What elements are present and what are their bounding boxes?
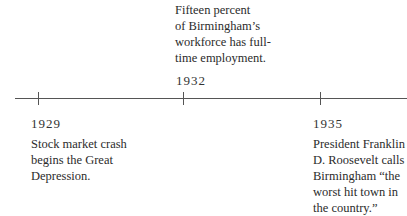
event-1929-year: 1929 bbox=[31, 116, 61, 132]
event-1935-year: 1935 bbox=[313, 116, 343, 132]
event-1932-line: time employment. bbox=[175, 50, 271, 66]
event-1929-line: Depression. bbox=[31, 168, 127, 184]
event-1932-line: of Birmingham’s bbox=[175, 18, 271, 34]
tick-1932 bbox=[183, 92, 184, 105]
event-1935-line: President Franklin bbox=[313, 136, 405, 152]
event-1932-year: 1932 bbox=[176, 73, 206, 89]
tick-1929 bbox=[38, 92, 39, 105]
event-1935-line: the country.” bbox=[313, 200, 405, 216]
event-1929-line: begins the Great bbox=[31, 152, 127, 168]
tick-1935 bbox=[320, 92, 321, 105]
event-1935-line: worst hit town in bbox=[313, 184, 405, 200]
event-1935-line: Birmingham “the bbox=[313, 168, 405, 184]
event-1932-line: workforce has full- bbox=[175, 34, 271, 50]
event-1929-line: Stock market crash bbox=[31, 136, 127, 152]
event-1929-description: Stock market crash begins the Great Depr… bbox=[31, 136, 127, 184]
event-1932-line: Fifteen percent bbox=[175, 2, 271, 18]
event-1935-description: President Franklin D. Roosevelt calls Bi… bbox=[313, 136, 405, 216]
event-1932-description: Fifteen percent of Birmingham’s workforc… bbox=[175, 2, 271, 66]
event-1935-line: D. Roosevelt calls bbox=[313, 152, 405, 168]
timeline-axis bbox=[15, 98, 407, 99]
